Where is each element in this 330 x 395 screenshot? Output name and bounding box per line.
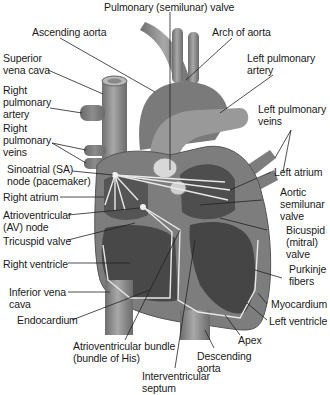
- svc-lumen: [108, 78, 122, 83]
- label-right-atrium: Right atrium: [3, 191, 58, 203]
- label-av-bundle: Atrioventricular bundle (bundle of His): [73, 340, 175, 364]
- label-pulmonary-valve: Pulmonary (semilunar) valve: [104, 1, 234, 13]
- label-apex: Apex: [238, 334, 262, 346]
- label-purkinje-fibers: Purkinje fibers: [289, 263, 326, 287]
- label-left-pulmonary-veins: Left pulmonary veins: [258, 103, 326, 127]
- label-sa-node: Sinoatrial (SA) node (pacemaker): [7, 163, 91, 187]
- label-left-pulmonary-artery: Left pulmonary artery: [247, 52, 315, 76]
- label-arch-of-aorta: Arch of aorta: [212, 26, 271, 38]
- label-inferior-vena-cava: Inferior vena cava: [9, 286, 66, 310]
- label-interventricular-septum: Interventricular septum: [142, 370, 210, 394]
- label-right-ventricle: Right ventricle: [3, 258, 68, 270]
- label-right-pulmonary-veins: Right pulmonary veins: [3, 122, 51, 158]
- label-superior-vena-cava: Superior vena cava: [3, 52, 50, 76]
- descending-aorta-shape: [180, 310, 210, 340]
- heart-diagram: Pulmonary (semilunar) valve Ascending ao…: [0, 0, 330, 395]
- label-aortic-valve: Aortic semilunar valve: [280, 186, 325, 222]
- pulmonary-valve-shape: [153, 158, 177, 178]
- label-left-atrium: Left atrium: [274, 166, 323, 178]
- label-left-ventricle: Left ventricle: [269, 315, 327, 327]
- label-av-node: Atrioventricular (AV) node: [3, 209, 71, 233]
- label-tricuspid-valve: Tricuspid valve: [3, 235, 71, 247]
- label-ascending-aorta: Ascending aorta: [32, 26, 106, 38]
- label-myocardium: Myocardium: [271, 298, 327, 310]
- right-pulmonary-artery-shape: [80, 105, 105, 121]
- right-pulmonary-vein-upper: [84, 145, 106, 156]
- av-node-shape: [140, 204, 146, 210]
- label-endocardium: Endocardium: [17, 314, 78, 326]
- carotid-branch: [172, 28, 183, 83]
- label-right-pulmonary-artery: Right pulmonary artery: [3, 84, 51, 120]
- label-bicuspid-valve: Bicuspid (mitral) valve: [286, 224, 325, 260]
